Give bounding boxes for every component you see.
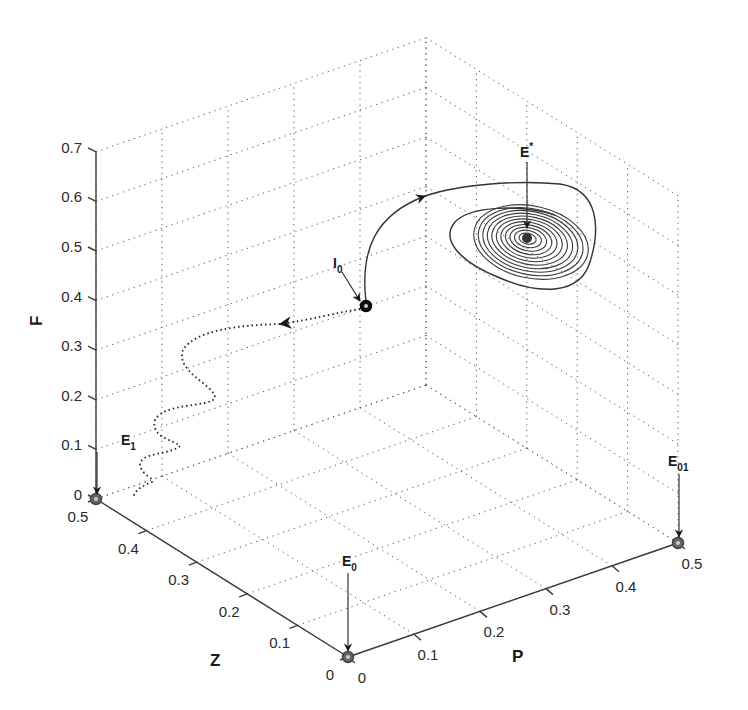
tick-label: 0.4 [118, 540, 139, 557]
marker-e1 [91, 494, 102, 505]
tick-label: 0.4 [616, 578, 637, 595]
svg-text:E*: E* [520, 141, 533, 160]
pointer-i0 [342, 272, 360, 301]
label-estar: E* [520, 141, 533, 160]
tick-label: 0.2 [61, 387, 82, 404]
label-e0: E0 [342, 553, 357, 573]
tick-label: 0.1 [418, 646, 439, 663]
tick-label: 0.5 [68, 508, 89, 525]
marker-e01 [673, 538, 684, 549]
tick-label: 0.4 [61, 288, 82, 305]
tick-label: 0.1 [269, 634, 290, 651]
svg-text:I0: I0 [333, 255, 343, 275]
marker-i0 [361, 301, 372, 312]
phase-portrait-3d: 00.10.20.30.40.500.10.20.30.40.500.10.20… [0, 0, 748, 710]
tick-label: 0.3 [61, 337, 82, 354]
tick-label: 0.6 [61, 188, 82, 205]
svg-text:E0: E0 [342, 553, 357, 573]
label-e1: E1 [121, 432, 136, 452]
axis-label-p: P [512, 647, 523, 666]
tick-label: 0.2 [219, 603, 240, 620]
tick-label: 0.1 [61, 436, 82, 453]
tick-label: 0 [326, 666, 334, 683]
marker-e0 [343, 652, 354, 663]
svg-text:E1: E1 [121, 432, 136, 452]
label-i0: I0 [333, 255, 343, 275]
tick-label: 0.7 [61, 139, 82, 156]
tick-label: 0 [358, 669, 366, 686]
grid-lines [96, 38, 678, 657]
trajectory-to-estar [365, 183, 596, 303]
tick-label: 0.3 [550, 601, 571, 618]
axis-label-f: F [27, 316, 46, 326]
axis-label-z: Z [210, 651, 220, 670]
tick-label: 0.5 [682, 555, 703, 572]
svg-text:E01: E01 [668, 453, 689, 473]
tick-label: 0.2 [484, 623, 505, 640]
tick-label: 0.5 [61, 238, 82, 255]
tick-label: 0 [74, 486, 82, 503]
tick-labels: 00.10.20.30.40.500.10.20.30.40.500.10.20… [61, 139, 702, 686]
tick-label: 0.3 [168, 571, 189, 588]
label-e01: E01 [668, 453, 689, 473]
trajectory-to-e1 [133, 309, 360, 498]
